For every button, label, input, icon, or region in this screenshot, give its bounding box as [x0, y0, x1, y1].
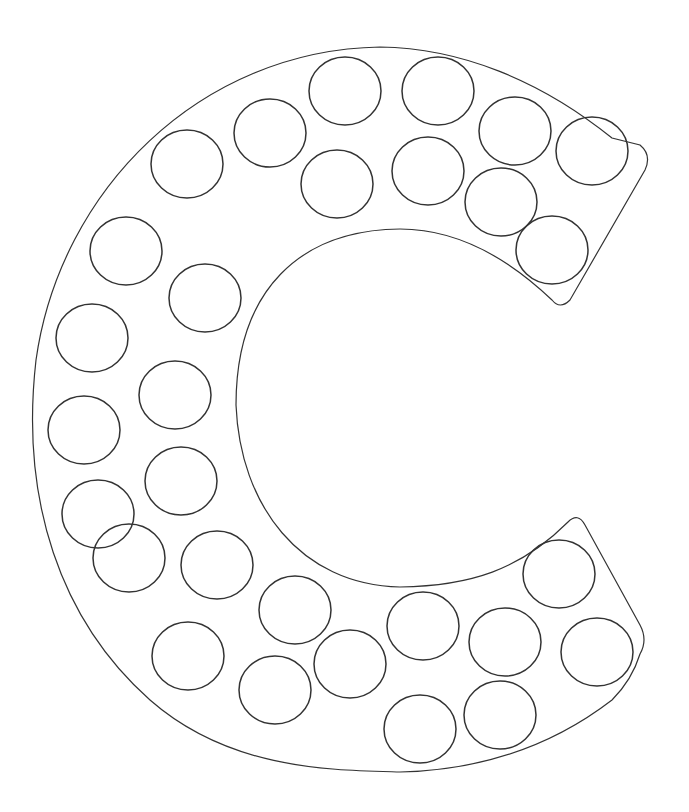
dot-circle — [152, 622, 224, 690]
dot-circle — [556, 117, 628, 185]
letter-c-outline — [33, 47, 648, 772]
dot-circle — [387, 592, 459, 660]
dot-circle — [561, 618, 633, 686]
dot-circle — [523, 540, 595, 608]
dot-circle — [516, 216, 588, 284]
dot-circle — [301, 150, 373, 218]
dot-circle — [259, 576, 331, 644]
dot-circle — [479, 97, 551, 165]
dot-circle — [314, 630, 386, 698]
dot-circle — [139, 361, 211, 429]
dot-circle — [392, 137, 464, 205]
dot-circles — [48, 57, 633, 763]
dot-circle — [145, 447, 217, 515]
dot-circle — [90, 217, 162, 285]
dot-circle — [464, 681, 536, 749]
dot-circle — [169, 264, 241, 332]
dot-circle — [469, 608, 541, 676]
letter-c-dot-worksheet — [0, 0, 689, 812]
dot-circle — [48, 396, 120, 464]
dot-circle — [151, 130, 223, 198]
dot-circle — [239, 656, 311, 724]
dot-circle — [234, 99, 306, 167]
dot-circle — [181, 531, 253, 599]
dot-circle — [62, 480, 134, 548]
dot-circle — [402, 57, 474, 125]
dot-circle — [56, 304, 128, 372]
dot-circle — [309, 57, 381, 125]
dot-circle — [93, 524, 165, 592]
dot-circle — [384, 695, 456, 763]
